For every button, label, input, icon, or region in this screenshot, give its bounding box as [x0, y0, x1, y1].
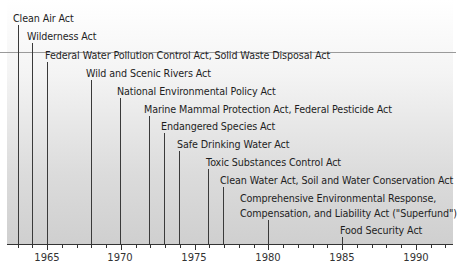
- tick-1964: [32, 244, 33, 248]
- tick-1991: [431, 244, 432, 248]
- tick-1985: [342, 244, 343, 250]
- tick-1963: [18, 244, 19, 248]
- tick-1986: [357, 244, 358, 248]
- tick-1972: [150, 244, 151, 248]
- event-label-1980-line1: Comprehensive Environmental Response,: [240, 193, 436, 204]
- tick-1969: [106, 244, 107, 248]
- tick-label-1975: 1975: [181, 252, 206, 263]
- event-label-1968: Wild and Scenic Rivers Act: [86, 68, 211, 79]
- tick-1967: [77, 244, 78, 248]
- event-label-1985: Food Security Act: [340, 225, 422, 236]
- tick-1983: [313, 244, 314, 248]
- tick-1992: [445, 244, 446, 248]
- tick-1987: [372, 244, 373, 248]
- event-label-1970: National Environmental Policy Act: [117, 86, 276, 97]
- tick-1978: [239, 244, 240, 248]
- event-line-1970: [120, 98, 121, 244]
- event-line-1977: [223, 187, 224, 244]
- tick-1975: [195, 244, 196, 250]
- tick-label-1985: 1985: [329, 252, 354, 263]
- event-line-1964: [32, 43, 33, 244]
- event-line-1963: [18, 25, 19, 244]
- tick-1973: [165, 244, 166, 248]
- event-line-1976: [208, 169, 209, 244]
- tick-1977: [224, 244, 225, 248]
- tick-1989: [401, 244, 402, 248]
- tick-1968: [91, 244, 92, 248]
- event-line-1974: [179, 151, 180, 244]
- tick-label-1980: 1980: [255, 252, 280, 263]
- tick-1974: [180, 244, 181, 248]
- tick-1990: [416, 244, 417, 250]
- event-label-1977: Clean Water Act, Soil and Water Conserva…: [220, 175, 453, 186]
- event-label-1965: Federal Water Pollution Control Act, Sol…: [45, 50, 330, 61]
- tick-1976: [209, 244, 210, 248]
- tick-1982: [298, 244, 299, 248]
- event-label-1980-line2: Compensation, and Liability Act ("Superf…: [240, 208, 457, 219]
- tick-label-1970: 1970: [107, 252, 132, 263]
- event-label-1964: Wilderness Act: [27, 31, 96, 42]
- event-line-1980: [268, 220, 269, 244]
- tick-label-1965: 1965: [34, 252, 59, 263]
- event-line-1965: [47, 62, 48, 244]
- event-line-1985: [342, 237, 343, 244]
- tick-1984: [327, 244, 328, 248]
- event-label-1963: Clean Air Act: [13, 13, 74, 24]
- tick-1981: [283, 244, 284, 248]
- event-label-1976: Toxic Substances Control Act: [206, 157, 341, 168]
- tick-1966: [62, 244, 63, 248]
- event-label-1973: Endangered Species Act: [161, 121, 275, 132]
- tick-label-1990: 1990: [403, 252, 428, 263]
- event-line-1973: [164, 133, 165, 244]
- event-line-1972: [149, 116, 150, 244]
- tick-1980: [268, 244, 269, 250]
- event-label-1974: Safe Drinking Water Act: [177, 139, 289, 150]
- tick-1970: [121, 244, 122, 250]
- event-line-1968: [91, 80, 92, 244]
- tick-1965: [47, 244, 48, 250]
- tick-1979: [254, 244, 255, 248]
- tick-1971: [136, 244, 137, 248]
- event-label-1972: Marine Mammal Protection Act, Federal Pe…: [144, 104, 392, 115]
- tick-1988: [386, 244, 387, 248]
